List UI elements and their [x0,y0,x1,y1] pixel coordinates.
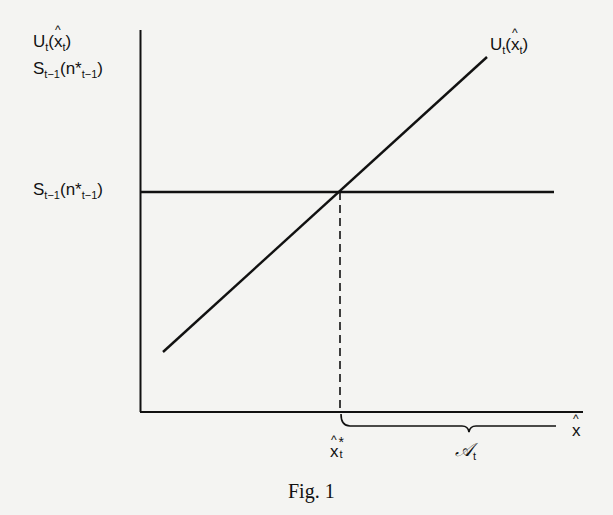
y-label-u-symbol: U [33,32,45,51]
hline-label-arg: n* [66,180,82,199]
figure-caption: Fig. 1 [288,480,335,503]
threshold-label-sub: t [340,449,343,460]
threshold-label: x*t [330,440,349,460]
y-label-s-sub: t−1 [44,68,60,80]
region-label-symbol: 𝒜 [455,438,473,460]
y-label-s-arg-sub: t−1 [82,68,98,80]
y-axis-label-s: St−1(n*t−1) [33,60,103,80]
threshold-label-hat: x [330,443,339,460]
y-label-s-arg: n* [66,59,82,78]
x-axis-label-text: x [572,421,581,440]
figure-1: Ut(xt) St−1(n*t−1) Ut(xt) St−1(n*t−1) x … [0,0,613,515]
hline-label-arg-sub: t−1 [82,189,98,201]
curve-label-arg: x [511,36,520,53]
y-label-s-symbol: S [33,59,44,78]
x-axis-label-hat: x [572,422,581,439]
region-label-sub: t [473,450,476,462]
region-brace [341,414,556,432]
x-axis-label: x [572,422,581,439]
u-curve-line [163,57,487,352]
y-label-u-arg: x [54,33,63,50]
curve-label-arg-text: x [511,35,520,54]
threshold-label-sup: * [339,435,344,449]
s-line-label: St−1(n*t−1) [33,181,103,201]
u-curve-label: Ut(xt) [490,36,528,56]
y-label-u-sub: t [45,41,48,53]
hline-label-sub: t−1 [44,189,60,201]
threshold-label-text: x [330,442,339,461]
hline-label-symbol: S [33,180,44,199]
curve-label-sub: t [502,44,505,56]
y-axis-label-u: Ut(xt) [33,33,71,53]
curve-label-symbol: U [490,35,502,54]
y-label-u-arg-text: x [54,32,63,51]
region-label: 𝒜t [455,440,476,462]
